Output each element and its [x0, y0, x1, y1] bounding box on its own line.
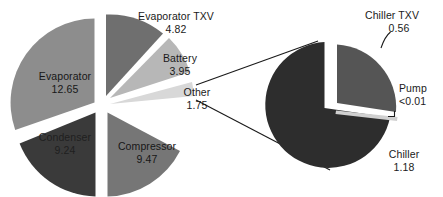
label-chiller-value: 1.18 — [378, 161, 430, 174]
pump-leader — [388, 111, 395, 117]
label-other-value: 1.75 — [173, 99, 221, 112]
label-pump-name: Pump — [399, 82, 427, 94]
label-evaporator-value: 12.65 — [22, 83, 108, 96]
label-evaporator: Evaporator 12.65 — [22, 70, 108, 95]
label-compressor: Compressor 9.47 — [105, 140, 189, 165]
label-evaporator-txv-value: 4.82 — [124, 23, 228, 36]
label-evaporator-name: Evaporator — [39, 70, 91, 82]
label-chiller-txv-value: 0.56 — [366, 22, 432, 35]
label-pump: Pump <0.01 — [399, 82, 443, 107]
label-pump-value: <0.01 — [399, 95, 443, 108]
label-battery: Battery 3.95 — [152, 52, 208, 77]
label-condenser: Condenser 9.24 — [25, 131, 105, 156]
label-chiller-txv-name: Chiller TXV — [365, 9, 419, 21]
label-chiller-name: Chiller — [389, 148, 419, 160]
label-condenser-value: 9.24 — [25, 144, 105, 157]
label-compressor-name: Compressor — [118, 140, 176, 152]
label-chiller: Chiller 1.18 — [378, 148, 430, 173]
label-evaporator-txv-name: Evaporator TXV — [138, 10, 214, 22]
primary-pie — [11, 14, 194, 196]
label-other-name: Other — [184, 86, 211, 98]
label-battery-value: 3.95 — [152, 65, 208, 78]
label-condenser-name: Condenser — [39, 131, 91, 143]
pie-of-pie-chart: Evaporator TXV 4.82 Battery 3.95 Other 1… — [0, 0, 443, 197]
label-chiller-txv: Chiller TXV 0.56 — [352, 9, 432, 34]
slice-chiller-txv[interactable] — [337, 45, 396, 113]
label-battery-name: Battery — [163, 52, 197, 64]
chiller-txv-leader — [381, 32, 391, 48]
label-compressor-value: 9.47 — [105, 153, 189, 166]
label-evaporator-txv: Evaporator TXV 4.82 — [124, 10, 228, 35]
label-other: Other 1.75 — [173, 86, 221, 111]
